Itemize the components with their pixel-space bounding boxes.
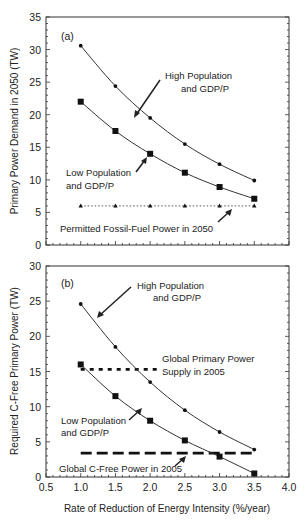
dot-marker-icon — [252, 448, 256, 452]
chart-figure: 05101520253035 Primary Power Demand in 2… — [0, 0, 305, 521]
annotation-line: Global Primary Power — [162, 353, 254, 364]
dot-marker-icon — [148, 116, 152, 120]
annotation-line: and GDP/P — [181, 83, 229, 94]
x-tick-label: 3.0 — [212, 481, 227, 493]
y-tick-label: 15 — [29, 141, 41, 153]
y-tick-label: 30 — [29, 44, 41, 56]
x-tick-label: 4.0 — [282, 481, 297, 493]
dot-marker-icon — [183, 142, 187, 146]
y-tick-label: 10 — [29, 174, 41, 186]
annotation-high-pop-a-2: and GDP/P — [181, 83, 229, 94]
annotation-low-pop-b: Low Population — [61, 415, 126, 426]
x-axis-title-b: Rate of Reduction of Energy Intensity (%… — [64, 503, 270, 514]
square-marker-icon — [78, 99, 84, 105]
annotation-high-pop-a: High Population — [165, 70, 232, 81]
annotation-low-pop-a: Low Population — [66, 167, 131, 178]
dot-marker-icon — [148, 380, 152, 384]
annotation-fossil-a: Permitted Fossil-Fuel Power in 2050 — [60, 223, 213, 234]
y-tick-label: 35 — [29, 11, 41, 23]
square-marker-icon — [251, 196, 257, 202]
y-tick-label: 0 — [35, 239, 41, 251]
square-marker-icon — [78, 361, 84, 367]
annotation-line: High Population — [137, 280, 204, 291]
x-tick-label: 2.0 — [143, 481, 158, 493]
dot-marker-icon — [218, 430, 222, 434]
square-marker-icon — [182, 437, 188, 443]
square-marker-icon — [147, 151, 153, 157]
annotation-line: Low Population — [61, 415, 126, 426]
annotation-line: High Population — [165, 70, 232, 81]
annotation-high-pop-b-2: and GDP/P — [153, 292, 201, 303]
panel-label-a: (a) — [61, 30, 74, 42]
dot-marker-icon — [218, 162, 222, 166]
annotation-line: and GDP/P — [66, 180, 114, 191]
panel-label-b: (b) — [61, 277, 74, 289]
x-tick-label: 1.5 — [108, 481, 123, 493]
y-tick-label: 5 — [35, 206, 41, 218]
series-b — [78, 302, 258, 476]
x-tick-label: 3.5 — [247, 481, 262, 493]
x-axis-a — [46, 241, 289, 245]
annotation-line: Supply in 2005 — [162, 366, 225, 377]
annotation-line: and GDP/P — [153, 292, 201, 303]
triangle-marker-icon — [79, 203, 83, 207]
series-line — [81, 46, 255, 181]
annotation-low-pop-a-2: and GDP/P — [66, 180, 114, 191]
dot-marker-icon — [114, 345, 118, 349]
dot-marker-icon — [114, 84, 118, 88]
annotation-global-supply-b-2: Supply in 2005 — [162, 366, 225, 377]
dot-marker-icon — [252, 179, 256, 183]
annotation-global-supply-b: Global Primary Power — [162, 353, 254, 364]
arrow-high-pop-a — [136, 80, 160, 115]
annotation-line: Low Population — [66, 167, 131, 178]
dot-marker-icon — [183, 408, 187, 412]
y-axis-title-a: Primary Power Demand in 2050 (TW) — [9, 48, 20, 215]
y-tick-label: 10 — [29, 401, 41, 413]
y-tick-label: 25 — [29, 76, 41, 88]
square-marker-icon — [251, 470, 257, 476]
dot-marker-icon — [79, 302, 83, 306]
y-tick-label: 20 — [29, 109, 41, 121]
y-tick-label: 5 — [35, 436, 41, 448]
annotation-cfree-b: Global C-Free Power in 2005 — [59, 463, 182, 474]
square-marker-icon — [217, 184, 223, 190]
annotation-line: and GDP/P — [61, 427, 109, 438]
y-axis-a: 05101520253035 — [29, 11, 289, 251]
arrow-high-pop-b — [100, 287, 131, 315]
y-tick-label: 15 — [29, 366, 41, 378]
square-marker-icon — [112, 393, 118, 399]
y-tick-label: 20 — [29, 330, 41, 342]
square-marker-icon — [112, 128, 118, 134]
y-tick-label: 25 — [29, 295, 41, 307]
x-axis-b: 0.51.01.52.02.53.03.54.0 — [39, 473, 297, 493]
panel-a: 05101520253035 Primary Power Demand in 2… — [9, 11, 289, 251]
x-tick-label: 2.5 — [178, 481, 193, 493]
panel-b: 051015202530 0.51.01.52.02.53.03.54.0 Re… — [9, 260, 296, 514]
square-marker-icon — [182, 170, 188, 176]
y-tick-label: 30 — [29, 260, 41, 272]
annotation-line: Permitted Fossil-Fuel Power in 2050 — [60, 223, 213, 234]
annotation-high-pop-b: High Population — [137, 280, 204, 291]
annotation-line: Global C-Free Power in 2005 — [59, 463, 182, 474]
x-tick-label: 0.5 — [39, 481, 54, 493]
plot-frame-a — [46, 17, 289, 245]
dot-marker-icon — [79, 44, 83, 48]
square-marker-icon — [147, 418, 153, 424]
reference-lines-b — [81, 369, 255, 453]
y-axis-title-b: Required C-Free Primary Power (TW) — [9, 287, 20, 455]
x-tick-label: 1.0 — [73, 481, 88, 493]
square-marker-icon — [217, 454, 223, 460]
annotation-low-pop-b-2: and GDP/P — [61, 427, 109, 438]
